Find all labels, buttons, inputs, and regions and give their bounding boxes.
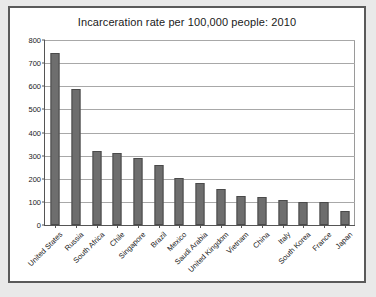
- x-axis-tick-label: Italy: [276, 230, 292, 246]
- bar-slot: [86, 40, 107, 225]
- y-axis-tick-label: 800: [28, 36, 41, 45]
- bar: [133, 158, 142, 225]
- bar-slot: [210, 40, 231, 225]
- bar: [154, 165, 163, 225]
- y-axis-tick-label: 0: [37, 221, 41, 230]
- x-axis-tick-label: China: [251, 230, 271, 250]
- bar-slot: [169, 40, 190, 225]
- bar: [278, 200, 287, 225]
- bar: [71, 89, 80, 225]
- y-axis-tick-label: 100: [28, 197, 41, 206]
- bar-slot: [252, 40, 273, 225]
- x-axis-tick-mark: [221, 225, 222, 228]
- x-axis-tick-mark: [241, 225, 242, 228]
- x-axis-tick-label: United States: [26, 230, 64, 268]
- bar-slot: [45, 40, 66, 225]
- bar-slot: [148, 40, 169, 225]
- x-axis-tick-mark: [283, 225, 284, 228]
- y-axis-tick-label: 600: [28, 82, 41, 91]
- y-axis-tick-label: 300: [28, 151, 41, 160]
- x-axis-tick-mark: [138, 225, 139, 228]
- x-axis-tick-mark: [179, 225, 180, 228]
- y-axis-tick-label: 700: [28, 59, 41, 68]
- x-axis-labels: United StatesRussiaSouth AfricaChileSing…: [44, 230, 355, 282]
- bar: [340, 211, 349, 225]
- bar-slot: [190, 40, 211, 225]
- bar: [51, 53, 60, 225]
- bar-slot: [272, 40, 293, 225]
- x-axis-tick-mark: [117, 225, 118, 228]
- bar: [257, 197, 266, 225]
- x-axis-tick-mark: [76, 225, 77, 228]
- x-axis-tick-label: Japan: [333, 230, 354, 251]
- x-axis-tick-mark: [159, 225, 160, 228]
- chart-title: Incarceration rate per 100,000 people: 2…: [10, 16, 364, 28]
- bar: [319, 202, 328, 225]
- bar-slot: [334, 40, 355, 225]
- bar-slot: [107, 40, 128, 225]
- bar: [113, 153, 122, 225]
- plot-area: 0100200300400500600700800: [44, 40, 355, 226]
- bar: [299, 202, 308, 225]
- y-axis-tick-label: 400: [28, 128, 41, 137]
- x-axis-tick-mark: [303, 225, 304, 228]
- x-axis-tick-mark: [324, 225, 325, 228]
- x-axis-tick-mark: [200, 225, 201, 228]
- x-axis-tick-mark: [345, 225, 346, 228]
- x-axis-tick-mark: [262, 225, 263, 228]
- x-axis-tick-mark: [97, 225, 98, 228]
- bar-slot: [128, 40, 149, 225]
- y-axis-tick-label: 200: [28, 174, 41, 183]
- bar: [195, 183, 204, 225]
- chart-panel: Incarceration rate per 100,000 people: 2…: [8, 6, 366, 283]
- bar: [92, 151, 101, 225]
- bar: [237, 196, 246, 225]
- bar: [216, 189, 225, 225]
- x-axis-tick-label: France: [310, 230, 333, 253]
- bar-slot: [66, 40, 87, 225]
- bars: [45, 40, 355, 225]
- y-axis-tick-label: 500: [28, 105, 41, 114]
- bar-slot: [314, 40, 335, 225]
- bar-slot: [231, 40, 252, 225]
- bar: [175, 178, 184, 225]
- bar-slot: [293, 40, 314, 225]
- x-axis-tick-mark: [55, 225, 56, 228]
